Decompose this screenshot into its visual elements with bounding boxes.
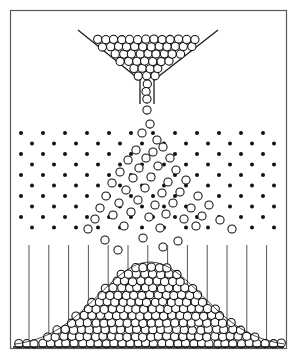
peg	[41, 131, 45, 135]
falling-balls	[84, 106, 236, 254]
peg	[19, 194, 23, 198]
peg	[151, 194, 155, 198]
hopper-ball	[134, 72, 142, 80]
peg	[74, 184, 78, 188]
falling-ball	[180, 215, 188, 223]
peg	[184, 226, 188, 230]
peg	[107, 152, 111, 156]
falling-ball	[182, 176, 190, 184]
pile-ball	[138, 291, 146, 299]
peg	[30, 226, 34, 230]
peg	[184, 163, 188, 167]
peg	[173, 215, 177, 219]
peg	[74, 226, 78, 230]
falling-ball	[141, 184, 149, 192]
pile-ball	[183, 312, 191, 320]
peg	[239, 131, 243, 135]
peg	[151, 131, 155, 135]
peg	[19, 152, 23, 156]
peg	[206, 163, 210, 167]
hopper-ball	[94, 35, 102, 43]
peg	[41, 215, 45, 219]
falling-ball	[187, 204, 195, 212]
peg	[272, 184, 276, 188]
peg	[63, 194, 67, 198]
falling-ball	[153, 136, 161, 144]
peg	[85, 131, 89, 135]
peg	[217, 194, 221, 198]
peg	[129, 131, 133, 135]
hopper-ball	[191, 35, 199, 43]
hopper-ball	[158, 35, 166, 43]
peg	[250, 184, 254, 188]
falling-ball	[158, 189, 166, 197]
falling-ball	[205, 201, 213, 209]
peg	[261, 215, 265, 219]
hopper-ball	[109, 35, 117, 43]
peg	[129, 194, 133, 198]
falling-ball	[96, 204, 104, 212]
falling-ball	[84, 225, 92, 233]
peg	[140, 226, 144, 230]
peg	[96, 142, 100, 146]
falling-ball	[134, 196, 142, 204]
peg	[217, 131, 221, 135]
pile-ball	[170, 291, 178, 299]
peg	[96, 184, 100, 188]
peg	[250, 163, 254, 167]
peg	[41, 152, 45, 156]
hopper-ball	[174, 35, 182, 43]
peg	[228, 142, 232, 146]
falling-ball	[154, 162, 162, 170]
peg	[195, 152, 199, 156]
peg	[118, 163, 122, 167]
peg	[30, 205, 34, 209]
peg	[85, 194, 89, 198]
galton-board-figure	[0, 0, 297, 360]
pile-ball	[128, 278, 136, 286]
peg	[63, 152, 67, 156]
peg	[272, 163, 276, 167]
falling-ball	[145, 213, 153, 221]
pile-ball	[203, 333, 211, 341]
pile-ball	[139, 264, 147, 272]
peg	[85, 152, 89, 156]
falling-ball	[162, 210, 170, 218]
neck-ball	[142, 87, 150, 95]
peg	[140, 142, 144, 146]
falling-ball	[172, 166, 180, 174]
peg	[228, 184, 232, 188]
peg	[52, 226, 56, 230]
peg	[41, 194, 45, 198]
pile-ball	[114, 291, 122, 299]
peg	[74, 142, 78, 146]
peg	[30, 184, 34, 188]
peg	[96, 163, 100, 167]
peg	[173, 131, 177, 135]
falling-ball	[216, 216, 224, 224]
falling-ball	[149, 148, 157, 156]
pile-ball	[88, 298, 96, 306]
falling-ball	[142, 154, 150, 162]
peg	[96, 226, 100, 230]
peg	[217, 173, 221, 177]
peg	[63, 173, 67, 177]
falling-ball	[159, 143, 167, 151]
peg	[19, 215, 23, 219]
peg	[261, 152, 265, 156]
falling-ball	[166, 154, 174, 162]
peg	[85, 215, 89, 219]
hopper-ball	[118, 36, 126, 44]
falling-ball	[135, 164, 143, 172]
pile-ball	[92, 319, 100, 327]
peg	[228, 163, 232, 167]
peg	[63, 131, 67, 135]
pile-ball	[147, 263, 155, 271]
peg	[30, 163, 34, 167]
falling-ball	[127, 208, 135, 216]
falling-ball	[176, 188, 184, 196]
falling-ball	[192, 222, 200, 230]
neck-ball	[143, 95, 151, 103]
peg	[228, 205, 232, 209]
pile-ball	[106, 291, 114, 299]
